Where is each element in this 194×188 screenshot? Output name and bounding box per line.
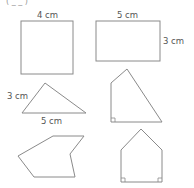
triangle-shape: 3 cm 5 cm	[7, 83, 86, 126]
triangle-bottom-label: 5 cm	[41, 116, 62, 126]
house-pentagon-shape	[121, 129, 162, 182]
square-top-label: 4 cm	[37, 10, 58, 20]
rectangle-top-label: 5 cm	[117, 10, 138, 20]
rectangle-shape: 5 cm 3 cm	[96, 10, 184, 61]
cut-header-text: ( _ _ )	[6, 0, 28, 6]
shapes-diagram: ( _ _ ) 4 cm 5 cm 3 cm 3 cm 5 cm	[0, 0, 194, 188]
quadrilateral-shape	[111, 69, 162, 122]
square-shape: 4 cm	[21, 10, 73, 74]
irregular-hexagon-shape	[18, 136, 84, 177]
triangle-left-label: 3 cm	[7, 91, 28, 101]
rectangle-right-label: 3 cm	[163, 36, 184, 46]
